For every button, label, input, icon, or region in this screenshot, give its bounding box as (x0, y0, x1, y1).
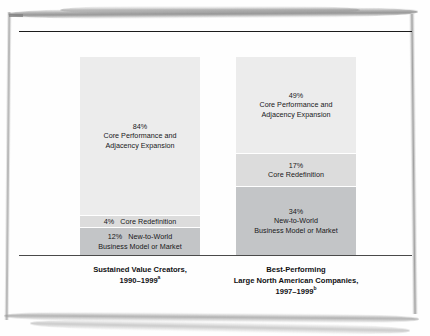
segment-percent: 4% (104, 217, 114, 226)
category-label-years: 1990–1999 (120, 276, 158, 285)
footnote-marker: a (158, 274, 161, 280)
segment-percent: 49% (259, 91, 332, 100)
category-label-line-1: Sustained Value Creators, (60, 264, 220, 275)
category-label-line-2: Large North American Companies, (216, 275, 376, 286)
segment-name-line-1: Core Redefinition (268, 170, 324, 179)
stacked-bar-sustained-value-creators: 84% Core Performance and Adjacency Expan… (80, 57, 200, 255)
bar-segment-core-performance-adjacency: 49% Core Performance and Adjacency Expan… (236, 57, 356, 153)
segment-name-line-1: Core Performance and (103, 131, 176, 140)
segment-percent: 12% (108, 232, 122, 241)
category-label-line-3: 1997–1999b (216, 286, 376, 297)
footnote-marker: b (313, 285, 316, 291)
bar-segment-core-redefinition: 4% Core Redefinition (80, 215, 200, 227)
segment-name-line-1: New-to-World (128, 232, 172, 241)
segment-name-line-1: Core Redefinition (120, 217, 176, 226)
category-label-sustained-value-creators: Sustained Value Creators, 1990–1999a (60, 264, 220, 286)
segment-name-line-2: Business Model or Market (98, 242, 182, 251)
bar-segment-new-to-world: 34% New-to-World Business Model or Marke… (236, 186, 356, 255)
stacked-bar-best-performing-north-american: 49% Core Performance and Adjacency Expan… (236, 57, 356, 255)
segment-label: 84% Core Performance and Adjacency Expan… (103, 122, 176, 150)
segment-inline-row: 4% Core Redefinition (104, 217, 176, 226)
segment-name-line-2: Adjacency Expansion (103, 141, 176, 150)
chart-plot-area: 84% Core Performance and Adjacency Expan… (0, 0, 430, 336)
segment-label: 34% New-to-World Business Model or Marke… (254, 207, 338, 235)
segment-name-line-2: Business Model or Market (254, 226, 338, 235)
chart-page: 84% Core Performance and Adjacency Expan… (0, 0, 430, 336)
segment-name-line-1: New-to-World (254, 216, 338, 225)
category-label-line-2: 1990–1999a (60, 275, 220, 286)
segment-name-line-2: Adjacency Expansion (259, 110, 332, 119)
segment-inline-row: 12% New-to-World (98, 232, 182, 241)
category-label-line-1: Best-Performing (216, 264, 376, 275)
segment-label: 12% New-to-World Business Model or Marke… (98, 232, 182, 251)
segment-percent: 84% (103, 122, 176, 131)
bar-segment-core-performance-adjacency: 84% Core Performance and Adjacency Expan… (80, 57, 200, 215)
segment-percent: 34% (254, 207, 338, 216)
segment-label: 4% Core Redefinition (104, 217, 176, 226)
segment-label: 49% Core Performance and Adjacency Expan… (259, 91, 332, 119)
bar-segment-new-to-world: 12% New-to-World Business Model or Marke… (80, 227, 200, 255)
segment-percent: 17% (268, 161, 324, 170)
category-label-years: 1997–1999 (275, 287, 313, 296)
segment-name-line-1: Core Performance and (259, 100, 332, 109)
segment-label: 17% Core Redefinition (268, 161, 324, 180)
category-label-best-performing-north-american: Best-Performing Large North American Com… (216, 264, 376, 297)
bar-segment-core-redefinition: 17% Core Redefinition (236, 153, 356, 186)
